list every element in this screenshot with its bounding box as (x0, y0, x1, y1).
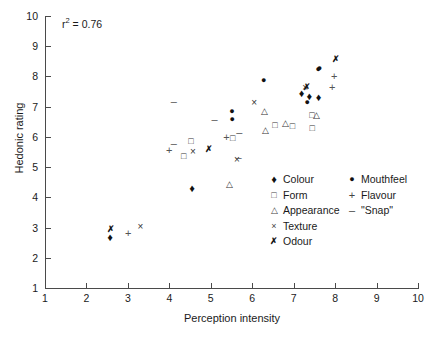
data-point-snap: – (235, 152, 241, 163)
y-axis-tick (45, 16, 51, 17)
x-axis-tick-label: 3 (116, 292, 140, 304)
data-point-form: □ (188, 136, 193, 145)
data-point-colour: ♦ (316, 92, 322, 103)
data-point-colour: ♦ (307, 91, 313, 102)
data-point-appearance: △ (262, 126, 269, 135)
data-point-form: □ (309, 111, 314, 120)
data-point-flavour: + (329, 81, 335, 92)
legend-label: Colour (283, 172, 314, 188)
data-point-colour: ♦ (107, 231, 113, 242)
data-point-odour: ✗ (303, 82, 311, 91)
y-axis-tick (45, 137, 51, 138)
data-point-snap: – (211, 113, 217, 124)
data-point-texture: × (190, 147, 196, 157)
x-axis-tick (169, 283, 170, 289)
y-axis-tick-label: 3 (16, 223, 38, 233)
data-point-mouthfeel: ● (229, 107, 234, 116)
data-point-colour: ♦ (299, 88, 305, 99)
legend-marker-icon: □ (268, 190, 280, 200)
legend-label: Mouthfeel (361, 172, 407, 188)
data-point-flavour: + (125, 227, 131, 238)
data-point-odour: ✗ (205, 144, 213, 153)
data-point-appearance: △ (313, 110, 320, 119)
x-axis-tick (252, 283, 253, 289)
y-axis-tick (45, 258, 51, 259)
data-point-flavour: + (331, 70, 337, 81)
data-point-mouthfeel: ● (230, 114, 235, 123)
x-axis-tick-label: 4 (157, 292, 181, 304)
y-axis-tick (45, 167, 51, 168)
legend-marker-icon: × (268, 221, 280, 231)
legend-label: Odour (283, 234, 312, 250)
data-point-texture: × (137, 222, 143, 232)
y-axis-tick-label: 9 (16, 41, 38, 51)
legend-marker-icon: + (346, 189, 358, 201)
y-axis-tick (45, 228, 51, 229)
legend-marker-icon: ● (346, 174, 358, 184)
legend-label: Flavour (361, 188, 396, 204)
x-axis-tick-label: 1 (33, 292, 57, 304)
x-axis-tick (86, 283, 87, 289)
y-axis-tick-label: 10 (16, 11, 38, 21)
data-point-flavour: + (166, 145, 172, 156)
data-point-mouthfeel: ● (315, 65, 320, 74)
data-point-flavour: + (223, 132, 229, 143)
data-point-texture: × (251, 98, 257, 108)
x-axis-tick-label: 8 (323, 292, 347, 304)
data-point-appearance: △ (226, 180, 233, 189)
r-squared-annotation: r2 = 0.76 (62, 16, 102, 30)
data-point-form: □ (290, 121, 295, 130)
x-axis-tick (211, 283, 212, 289)
x-axis-line (45, 288, 419, 289)
y-axis-line (45, 16, 46, 289)
data-point-texture: × (234, 155, 240, 165)
x-axis-tick (377, 283, 378, 289)
legend-label: Form (283, 188, 308, 204)
data-point-mouthfeel: ● (261, 76, 266, 85)
x-axis-tick (128, 283, 129, 289)
legend-marker-icon: ♦ (268, 173, 280, 185)
data-point-colour: ♦ (189, 182, 195, 193)
data-point-mouthfeel: ● (305, 97, 310, 106)
data-point-texture: × (302, 83, 308, 93)
x-axis-title: Perception intensity (45, 312, 419, 324)
legend-marker-icon: – (346, 204, 358, 216)
x-axis-tick (418, 283, 419, 289)
legend-label: Appearance (283, 203, 340, 219)
y-axis-tick (45, 76, 51, 77)
data-point-odour: ✗ (107, 225, 115, 234)
x-axis-tick-label: 5 (199, 292, 223, 304)
legend-marker-icon: ✗ (268, 236, 280, 246)
data-point-appearance: △ (261, 107, 268, 116)
x-axis-tick (335, 283, 336, 289)
data-point-snap: – (236, 127, 242, 138)
data-point-form: □ (310, 123, 315, 132)
legend-label: Texture (283, 219, 317, 235)
data-point-form: □ (181, 152, 186, 161)
x-axis-tick-label: 7 (282, 292, 306, 304)
y-axis-tick (45, 107, 51, 108)
data-point-appearance: △ (282, 118, 289, 127)
scatter-plot-figure: 1234567891012345678910 ♦♦♦♦♦□□□□□□□△△△△△… (0, 0, 445, 337)
y-axis-tick (45, 197, 51, 198)
y-axis-title: Hedonic rating (13, 88, 25, 188)
y-axis-tick (45, 46, 51, 47)
y-axis-tick-label: 4 (16, 192, 38, 202)
y-axis-tick-label: 8 (16, 71, 38, 81)
x-axis-tick-label: 9 (365, 292, 389, 304)
data-point-snap: – (171, 138, 177, 149)
data-point-mouthfeel: ● (317, 63, 322, 72)
x-axis-tick-label: 2 (74, 292, 98, 304)
legend-label: "Snap" (361, 203, 393, 219)
y-axis-tick-label: 2 (16, 253, 38, 263)
legend-marker-icon: △ (268, 205, 280, 215)
data-point-odour: ✗ (332, 55, 340, 64)
data-point-snap: – (171, 95, 177, 106)
x-axis-tick-label: 10 (406, 292, 430, 304)
data-point-form: □ (230, 134, 235, 143)
x-axis-tick (294, 283, 295, 289)
x-axis-tick (45, 283, 46, 289)
x-axis-tick-label: 6 (240, 292, 264, 304)
r-value: = 0.76 (70, 18, 102, 30)
data-point-form: □ (272, 121, 277, 130)
